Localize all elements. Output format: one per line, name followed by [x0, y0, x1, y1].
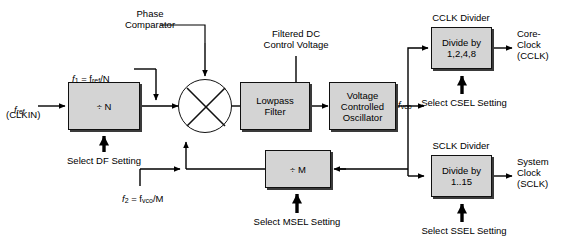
block-lowpass-filter-label: Lowpass Filter: [256, 95, 294, 117]
block-lowpass-filter[interactable]: Lowpass Filter: [240, 82, 310, 130]
label-select-ssel-setting: Select SSEL Setting: [404, 225, 524, 236]
block-vco-label: Voltage Controlled Oscillator: [341, 90, 384, 123]
block-divide-by-n[interactable]: ÷ N: [68, 82, 140, 130]
label-core-clock-output: Core- Clock (CCLK): [517, 28, 571, 61]
phase-comparator-symbol[interactable]: [178, 79, 232, 133]
block-divide-by-m[interactable]: ÷ M: [265, 150, 331, 188]
label-f2-equation: f2 = fvco/M: [122, 182, 202, 206]
label-select-msel-setting: Select MSEL Setting: [232, 216, 362, 227]
label-filtered-dc-control-voltage: Filtered DC Control Voltage: [246, 28, 346, 50]
label-system-clock-output: System Clock (SCLK): [517, 156, 571, 189]
block-divide-by-m-label: ÷ M: [290, 164, 306, 175]
f2-vco-subscript: vco: [142, 197, 153, 204]
f1-equals: = f: [79, 73, 92, 84]
label-sclk-divider: SCLK Divider: [421, 140, 501, 151]
label-select-csel-setting: Select CSEL Setting: [404, 97, 524, 108]
f1-ref-subscript: ref: [92, 77, 100, 84]
block-sclk-divider-label: Divide by 1..15: [442, 165, 481, 187]
block-sclk-divider[interactable]: Divide by 1..15: [431, 155, 492, 197]
f2-equals: = f: [129, 193, 142, 204]
f1-divisor: /N: [100, 73, 110, 84]
label-cclk-divider: CCLK Divider: [421, 12, 501, 23]
block-divide-by-n-label: ÷ N: [97, 101, 112, 112]
f2-divisor: /M: [153, 193, 164, 204]
label-clkin: (CLKIN): [6, 109, 56, 120]
block-vco[interactable]: Voltage Controlled Oscillator: [329, 82, 396, 130]
pll-block-diagram: ÷ N Lowpass Filter Voltage Controlled Os…: [0, 0, 572, 244]
phase-comparator-cross-icon: [179, 80, 233, 134]
label-phase-comparator: Phase Comparator: [100, 8, 200, 30]
label-f1-equation: f1 = fref/N: [72, 62, 142, 86]
block-cclk-divider-label: Divide by 1,2,4,8: [442, 37, 481, 59]
label-select-df-setting: Select DF Setting: [44, 155, 164, 166]
block-cclk-divider[interactable]: Divide by 1,2,4,8: [431, 27, 492, 69]
